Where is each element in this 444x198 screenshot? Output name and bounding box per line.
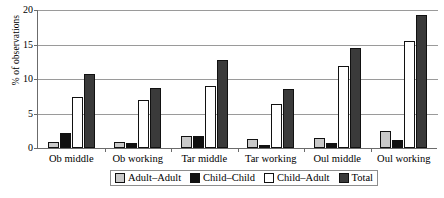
x-axis-tick-label: Oul middle bbox=[313, 153, 361, 164]
x-axis-tick-label: Ob working bbox=[113, 153, 163, 164]
legend-label: Total bbox=[352, 172, 373, 183]
bar bbox=[404, 41, 415, 148]
bar bbox=[350, 48, 361, 148]
bar-group: Oul middle bbox=[304, 10, 371, 148]
bar bbox=[338, 66, 349, 148]
legend-swatch bbox=[190, 173, 200, 183]
bar-group: Tar middle bbox=[171, 10, 238, 148]
x-axis-tick-label: Tar middle bbox=[181, 153, 227, 164]
bar bbox=[380, 131, 391, 148]
y-axis-tick-label: 10 bbox=[23, 74, 33, 84]
legend-item: Adult–Adult bbox=[115, 172, 181, 183]
legend-item: Child–Child bbox=[190, 172, 255, 183]
bar bbox=[217, 60, 228, 148]
bar-chart: % of observations 05101520 Ob middleOb w… bbox=[0, 0, 444, 198]
bar bbox=[247, 139, 258, 148]
bar bbox=[60, 133, 71, 148]
legend-swatch bbox=[115, 173, 125, 183]
bar bbox=[205, 86, 216, 148]
legend-item: Child–Adult bbox=[264, 172, 330, 183]
legend-label: Adult–Adult bbox=[128, 172, 181, 183]
bar-group: Oul working bbox=[371, 10, 438, 148]
bar bbox=[259, 145, 270, 148]
bar bbox=[193, 136, 204, 148]
bar bbox=[314, 138, 325, 148]
bar bbox=[416, 15, 427, 148]
y-axis-tick-mark bbox=[34, 148, 38, 149]
legend-swatch bbox=[264, 173, 274, 183]
bar bbox=[283, 89, 294, 148]
bar-groups: Ob middleOb workingTar middleTar working… bbox=[38, 10, 437, 148]
y-axis-tick-label: 5 bbox=[28, 109, 33, 119]
legend-item: Total bbox=[339, 172, 373, 183]
bar-group: Ob middle bbox=[38, 10, 105, 148]
bar bbox=[271, 104, 282, 148]
bar-group: Ob working bbox=[105, 10, 172, 148]
bar bbox=[326, 143, 337, 148]
bar bbox=[138, 100, 149, 148]
chart-legend: Adult–AdultChild–ChildChild–AdultTotal bbox=[110, 170, 378, 186]
legend-swatch bbox=[339, 173, 349, 183]
y-axis-tick-label: 15 bbox=[23, 40, 33, 50]
bar bbox=[84, 74, 95, 148]
x-axis-tick-label: Oul working bbox=[377, 153, 430, 164]
y-axis-title: % of observations bbox=[11, 0, 21, 110]
bar bbox=[114, 142, 125, 148]
bar bbox=[126, 143, 137, 148]
bar bbox=[48, 142, 59, 148]
y-axis-tick-label: 20 bbox=[23, 5, 33, 15]
legend-label: Child–Child bbox=[203, 172, 255, 183]
bar-group: Tar working bbox=[238, 10, 305, 148]
bar bbox=[72, 97, 83, 148]
bar bbox=[181, 136, 192, 148]
bar bbox=[392, 140, 403, 148]
x-axis-tick-label: Ob middle bbox=[49, 153, 94, 164]
y-axis-tick-label: 0 bbox=[28, 143, 33, 153]
bar bbox=[150, 88, 161, 148]
plot-area: 05101520 Ob middleOb workingTar middleTa… bbox=[37, 10, 437, 149]
legend-label: Child–Adult bbox=[277, 172, 330, 183]
x-axis-tick-label: Tar working bbox=[245, 153, 296, 164]
